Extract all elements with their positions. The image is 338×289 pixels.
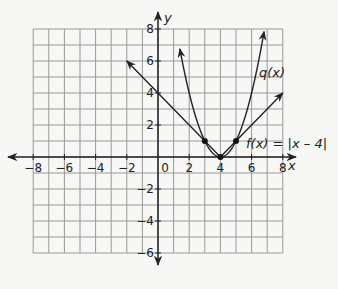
- y-tick-label: −4: [136, 214, 154, 228]
- y-tick-label: 6: [146, 54, 154, 68]
- x-tick-label: −6: [56, 161, 74, 175]
- y-tick-label: −6: [136, 246, 154, 260]
- coordinate-plane: −8−6−4−2024688642−2−4−6 x y q(x) f(x) = …: [0, 0, 338, 289]
- x-tick-label: −8: [24, 161, 42, 175]
- x-tick-label: 2: [185, 161, 193, 175]
- q-curve-label: q(x): [259, 65, 285, 80]
- x-axis-label: x: [287, 158, 296, 173]
- point-marker: [202, 138, 208, 144]
- x-tick-label: 0: [161, 161, 169, 175]
- y-tick-label: −2: [136, 182, 154, 196]
- y-tick-label: 2: [146, 118, 154, 132]
- x-tick-label: −4: [87, 161, 105, 175]
- point-marker: [217, 154, 223, 160]
- x-tick-label: 6: [248, 161, 256, 175]
- x-tick-label: −2: [118, 161, 136, 175]
- y-axis-label: y: [163, 10, 172, 25]
- point-marker: [233, 138, 239, 144]
- y-tick-label: 8: [146, 22, 154, 36]
- x-tick-label: 8: [279, 161, 287, 175]
- x-tick-label: 4: [217, 161, 225, 175]
- f-curve-label: f(x) = |x – 4|: [246, 136, 327, 151]
